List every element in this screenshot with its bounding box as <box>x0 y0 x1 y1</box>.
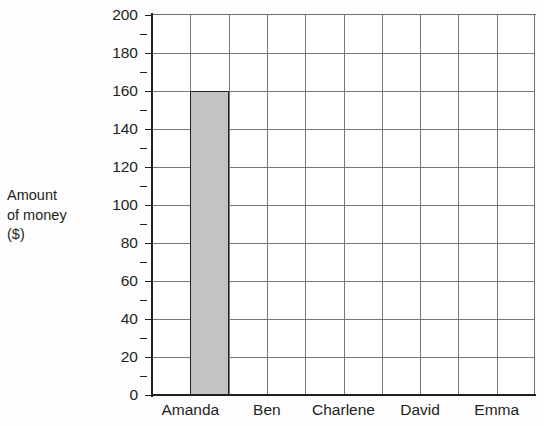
y-tick-minor-50 <box>140 300 147 301</box>
bar-chart: Amount of money ($) 02040608010012014016… <box>0 0 544 426</box>
plot-frame-right <box>534 14 535 396</box>
gridline-x-9 <box>497 15 498 395</box>
y-tick-minor-170 <box>140 72 147 73</box>
y-tick-label-200: 200 <box>94 7 138 23</box>
x-label-emma: Emma <box>474 399 519 421</box>
y-tick-label-140: 140 <box>94 121 138 137</box>
gridline-x-2 <box>229 15 230 395</box>
y-tick-label-160: 160 <box>94 83 138 99</box>
y-tick-minor-190 <box>140 34 147 35</box>
y-tick-minor-150 <box>140 110 147 111</box>
x-label-charlene: Charlene <box>312 399 375 421</box>
y-axis-title: Amount of money ($) <box>7 186 103 245</box>
y-tick-label-0: 0 <box>94 387 138 403</box>
y-tick-minor-30 <box>140 338 147 339</box>
y-tick-minor-130 <box>140 148 147 149</box>
gridline-x-5 <box>344 15 345 395</box>
y-tick-label-100: 100 <box>94 197 138 213</box>
y-tick-label-60: 60 <box>94 273 138 289</box>
gridline-x-7 <box>420 15 421 395</box>
x-label-amanda: Amanda <box>161 399 219 421</box>
y-tick-minor-110 <box>140 186 147 187</box>
x-axis-category-labels: AmandaBenCharleneDavidEmma <box>152 399 535 425</box>
plot-frame-top <box>152 14 536 15</box>
y-tick-label-120: 120 <box>94 159 138 175</box>
gridline-x-8 <box>458 15 459 395</box>
plot-area <box>152 15 535 395</box>
x-label-ben: Ben <box>253 399 281 421</box>
x-label-david: David <box>400 399 440 421</box>
y-axis-tick-labels: 020406080100120140160180200 <box>92 0 138 426</box>
y-tick-label-80: 80 <box>94 235 138 251</box>
y-tick-label-40: 40 <box>94 311 138 327</box>
gridline-x-6 <box>382 15 383 395</box>
y-tick-minor-90 <box>140 224 147 225</box>
y-tick-label-180: 180 <box>94 45 138 61</box>
x-axis-line <box>151 394 536 396</box>
gridline-x-3 <box>267 15 268 395</box>
y-tick-minor-70 <box>140 262 147 263</box>
y-axis-line <box>151 13 153 397</box>
bar-amanda <box>190 91 228 395</box>
y-tick-label-20: 20 <box>94 349 138 365</box>
y-tick-minor-10 <box>140 376 147 377</box>
gridline-x-4 <box>305 15 306 395</box>
